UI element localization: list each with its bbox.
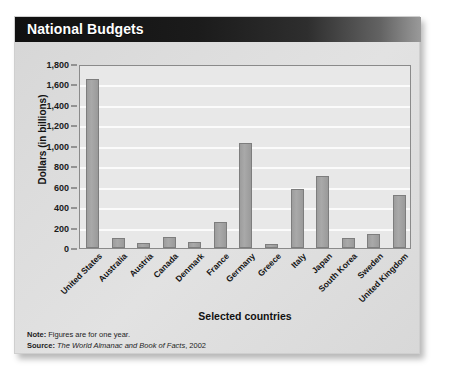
- page-title: National Budgets: [27, 21, 144, 37]
- y-tick-label: 1,000: [46, 142, 69, 152]
- bar-column: [157, 64, 183, 248]
- bar-column: [335, 64, 361, 248]
- source-line: Source: The World Almanac and Book of Fa…: [27, 341, 407, 352]
- y-tick-label: 1,600: [46, 80, 69, 90]
- source-title: The World Almanac and Book of Facts: [57, 341, 185, 350]
- bar: [214, 222, 227, 248]
- y-tick-label: 200: [54, 224, 69, 234]
- bar-column: [208, 64, 234, 248]
- y-axis-ticks: 1,8001,6001,4001,2001,0008006004002000: [15, 65, 77, 249]
- y-tick-mark: [71, 167, 77, 168]
- bar-column: [310, 64, 336, 248]
- footnotes: Note: Figures are for one year. Source: …: [27, 330, 407, 351]
- x-tick-label: Greece: [255, 251, 282, 278]
- y-tick-mark: [71, 228, 77, 229]
- bar-series: [80, 66, 410, 248]
- y-tick-label: 400: [54, 203, 69, 213]
- bar: [163, 237, 176, 248]
- y-tick-mark: [71, 187, 77, 188]
- bar: [342, 238, 355, 248]
- note-line: Note: Figures are for one year.: [27, 330, 407, 341]
- y-tick-mark: [71, 249, 77, 250]
- bar-column: [259, 64, 285, 248]
- bar: [188, 242, 201, 248]
- bar: [291, 189, 304, 248]
- bar-column: [106, 64, 132, 248]
- y-tick-mark: [71, 65, 77, 66]
- bar-column: [80, 64, 106, 248]
- bar: [367, 234, 380, 248]
- bar: [316, 176, 329, 248]
- bar-column: [284, 64, 310, 248]
- y-tick-mark: [71, 146, 77, 147]
- bar: [239, 143, 252, 248]
- note-text: Figures are for one year.: [48, 330, 130, 339]
- bar-column: [361, 64, 387, 248]
- source-year: , 2002: [185, 341, 206, 350]
- x-axis-title: Selected countries: [79, 310, 411, 322]
- y-tick-label: 1,800: [46, 60, 69, 70]
- y-tick-label: 1,400: [46, 101, 69, 111]
- bar: [265, 244, 278, 248]
- y-tick-mark: [71, 105, 77, 106]
- bar-column: [131, 64, 157, 248]
- chart-card: National Budgets Dollars (in billions) 1…: [14, 16, 420, 354]
- source-label: Source:: [27, 341, 55, 350]
- bar: [86, 79, 99, 248]
- y-tick-mark: [71, 208, 77, 209]
- card-title-bar: National Budgets: [15, 17, 421, 42]
- x-tick-label: Austria: [127, 251, 155, 279]
- y-tick-label: 800: [54, 162, 69, 172]
- x-tick-label: Italy: [289, 251, 308, 270]
- y-tick-mark: [71, 85, 77, 86]
- note-label: Note:: [27, 330, 46, 339]
- y-tick-label: 1,200: [46, 121, 69, 131]
- page-root: National Budgets Dollars (in billions) 1…: [0, 0, 455, 379]
- chart-area: Dollars (in billions) 1,8001,6001,4001,2…: [15, 42, 421, 355]
- bar-column: [386, 64, 412, 248]
- bar: [393, 195, 406, 248]
- bar-column: [182, 64, 208, 248]
- bar: [137, 243, 150, 248]
- x-axis-ticks: United StatesAustraliaAustriaCanadaDenma…: [79, 251, 411, 313]
- x-tick-label: United States: [58, 251, 103, 296]
- plot-area: [79, 65, 411, 249]
- bar: [112, 238, 125, 248]
- bar-column: [233, 64, 259, 248]
- y-tick-label: 0: [64, 244, 69, 254]
- y-tick-label: 600: [54, 183, 69, 193]
- y-tick-mark: [71, 126, 77, 127]
